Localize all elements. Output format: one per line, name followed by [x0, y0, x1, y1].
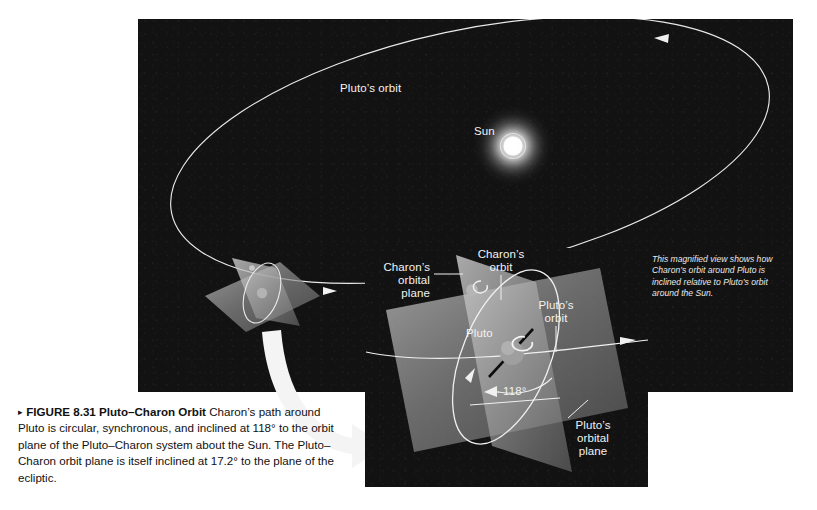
- charons-orbit-label: Charon’s orbit: [459, 248, 543, 274]
- plutos-orbital-plane-label: Pluto’s orbital plane: [562, 419, 624, 458]
- inclination-angle-label: 118°: [503, 385, 526, 398]
- figure-caption: ▸ FIGURE 8.31 Pluto–Charon Orbit Charon’…: [18, 404, 348, 486]
- plutos-orbit-label-inset: Pluto’s orbit: [527, 299, 585, 325]
- caption-figure-title: Pluto–Charon Orbit: [99, 405, 206, 418]
- figure-pluto-charon-orbit: Pluto’s orbit Sun This magnified view sh…: [0, 0, 817, 510]
- charons-orbital-plane-label: Charon’s orbital plane: [330, 261, 430, 300]
- plutos-orbit-arrowhead: [620, 337, 636, 345]
- charon-body: [466, 284, 478, 296]
- caption-marker: ▸: [18, 407, 23, 417]
- caption-figure-number: FIGURE 8.31: [26, 405, 96, 418]
- pluto-label: Pluto: [466, 327, 493, 340]
